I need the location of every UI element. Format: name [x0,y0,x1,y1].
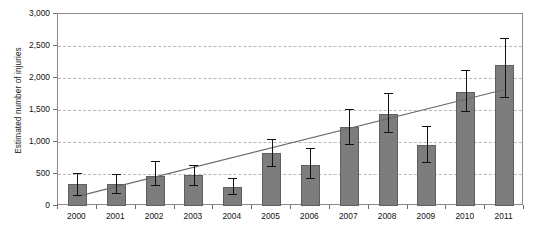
x-axis-tick-mark [96,205,97,209]
error-bar-stem-2003 [194,165,195,185]
error-bar-cap-upper-2011 [500,38,509,39]
error-bar-cap-upper-2000 [73,173,82,174]
error-bar-cap-upper-2003 [189,165,198,166]
x-axis-tick-mark [368,205,369,209]
error-bar-stem-2006 [310,148,311,177]
error-bar-stem-2002 [155,161,156,185]
error-bar-stem-2000 [77,173,78,195]
error-bar-cap-upper-2005 [267,139,276,140]
x-axis-tick-mark [523,205,524,209]
error-bar-cap-upper-2001 [112,174,121,175]
x-axis-tick-mark [484,205,485,209]
plot-area [57,13,523,205]
x-axis-tick-mark [251,205,252,209]
error-bar-cap-lower-2011 [500,97,509,98]
y-axis-tick-label: 0 [6,200,50,210]
error-bar-cap-lower-2010 [461,111,470,112]
error-bar-cap-lower-2005 [267,166,276,167]
error-bar-cap-upper-2010 [461,70,470,71]
error-bar-cap-lower-2006 [306,178,315,179]
error-bar-cap-lower-2007 [345,144,354,145]
error-bar-stem-2005 [272,139,273,167]
error-bar-cap-lower-2002 [151,185,160,186]
trend-line-segment [77,90,504,197]
error-bar-cap-upper-2002 [151,161,160,162]
error-bar-stem-2007 [349,109,350,144]
x-axis-tick-mark [445,205,446,209]
error-bar-stem-2001 [116,174,117,193]
error-bar-stem-2011 [505,38,506,97]
error-bar-cap-lower-2001 [112,193,121,194]
error-bar-stem-2008 [388,93,389,132]
error-bar-cap-lower-2000 [73,195,82,196]
error-bar-cap-lower-2008 [384,132,393,133]
error-bar-stem-2004 [233,178,234,194]
error-bar-cap-lower-2003 [189,185,198,186]
x-axis-tick-mark [135,205,136,209]
error-bar-cap-lower-2009 [422,162,431,163]
y-axis-tick-label: 3,000 [6,8,50,18]
x-axis-tick-mark [407,205,408,209]
chart-container: Estimated number of injuries 05001,0001,… [0,0,539,233]
error-bar-cap-upper-2009 [422,126,431,127]
error-bar-cap-upper-2008 [384,93,393,94]
trendline [58,14,524,206]
x-axis-tick-mark [174,205,175,209]
x-axis-tick-mark [329,205,330,209]
error-bar-cap-lower-2004 [228,194,237,195]
error-bar-cap-upper-2007 [345,109,354,110]
x-axis-tick-mark [57,205,58,209]
error-bar-cap-upper-2006 [306,148,315,149]
y-axis-title: Estimated number of injuries [14,21,23,181]
x-axis-tick-label-2011: 2011 [481,211,527,221]
error-bar-stem-2009 [427,126,428,162]
x-axis-tick-mark [212,205,213,209]
x-axis-tick-mark [290,205,291,209]
error-bar-stem-2010 [466,70,467,112]
error-bar-cap-upper-2004 [228,178,237,179]
